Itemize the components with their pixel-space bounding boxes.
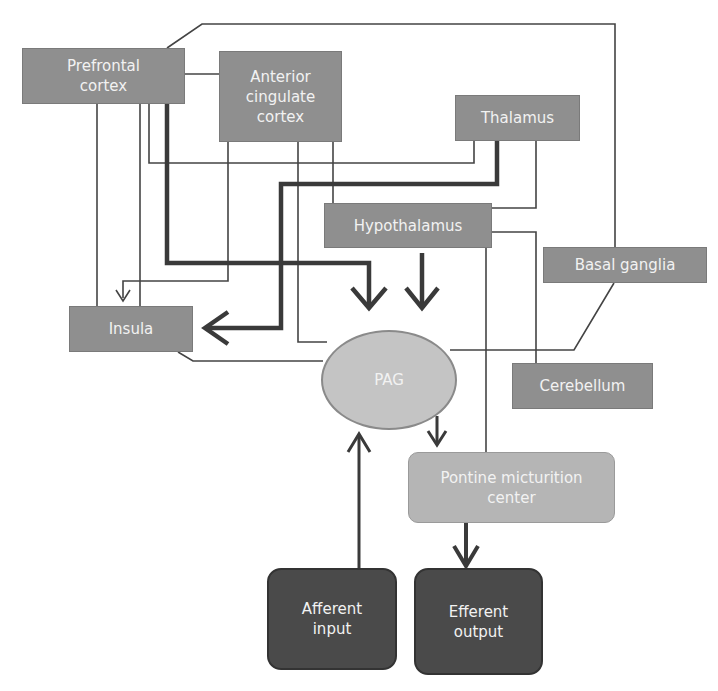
node-afferent-input: Afferent input [267, 568, 397, 670]
node-thalamus: Thalamus [455, 95, 580, 141]
node-label: Pontine micturition center [429, 468, 594, 508]
node-insula: Insula [69, 306, 193, 352]
node-label: PAG [374, 370, 404, 390]
node-label: Insula [109, 319, 154, 339]
node-efferent-output: Efferent output [414, 568, 543, 675]
edge-insula-pag [178, 352, 323, 361]
edge-acc-pag [298, 142, 327, 342]
node-label: Cerebellum [540, 376, 626, 396]
node-anterior-cingulate-cortex: Anterior cingulate cortex [219, 51, 342, 142]
node-label: Thalamus [481, 108, 554, 128]
node-basal-ganglia: Basal ganglia [543, 247, 707, 283]
node-label: Prefrontal cortex [53, 56, 154, 96]
node-label: Afferent input [297, 599, 367, 639]
edge-hypothalamus-cerebellum [492, 232, 536, 363]
node-pag: PAG [321, 330, 457, 430]
edge-acc-insula [123, 142, 228, 298]
node-hypothalamus: Hypothalamus [324, 203, 492, 248]
node-label: Hypothalamus [354, 216, 463, 236]
node-pontine-micturition-center: Pontine micturition center [408, 452, 615, 523]
node-cerebellum: Cerebellum [512, 363, 653, 409]
edge-basal-ganglia-pag [450, 283, 614, 350]
node-label: Anterior cingulate cortex [238, 67, 323, 127]
node-label: Basal ganglia [575, 255, 676, 275]
node-prefrontal-cortex: Prefrontal cortex [22, 48, 185, 104]
node-label: Efferent output [444, 602, 513, 642]
